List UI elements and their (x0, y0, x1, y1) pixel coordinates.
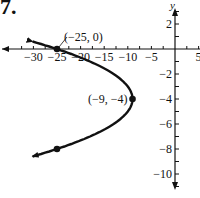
x-tick-label: 5 (196, 50, 200, 64)
point-label-vertex-intercept: (−25, 0) (64, 30, 103, 44)
y-tick-label: 2 (166, 17, 172, 31)
x-tick-label: −10 (118, 50, 137, 64)
y-tick-label: −8 (159, 142, 172, 156)
x-tick-label: −30 (24, 50, 43, 64)
data-point (129, 96, 136, 103)
x-tick-label: −5 (145, 50, 158, 64)
data-point (54, 146, 61, 153)
y-tick-label: −2 (159, 67, 172, 81)
x-tick-label: −15 (95, 50, 114, 64)
y-tick-label: −6 (159, 117, 172, 131)
y-tick-label: −4 (159, 92, 172, 106)
parabola-plot: y−30−25−20−15−10−552−2−4−6−8−10 (−25, 0)… (0, 0, 200, 198)
point-label-vertex: (−9, −4) (88, 92, 128, 106)
y-tick-label: −10 (153, 167, 172, 181)
y-axis-label: y (169, 0, 175, 11)
x-axis-left-arrow-icon (2, 46, 9, 52)
